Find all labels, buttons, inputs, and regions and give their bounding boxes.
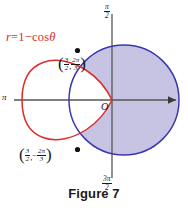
equation-theta: θ	[49, 30, 55, 44]
paren-open: (	[19, 145, 25, 164]
paren-open: (	[58, 54, 64, 73]
fraction-denominator: 3	[37, 155, 46, 163]
point-marker-upper	[75, 48, 80, 53]
axis-label-pi: π	[2, 93, 7, 102]
axis-label-pi-over-2: π 2	[104, 2, 110, 19]
equation-cos: cos	[32, 30, 49, 44]
paren-close: )	[46, 145, 52, 164]
origin-label: O	[101, 102, 108, 112]
figure-container: r=1−cosθ π π 2 3π 2 O ( 3 2 , 2π 3 ) ( 3…	[0, 0, 188, 208]
fraction-numerator: 2π	[71, 57, 80, 64]
fraction-numerator: π	[104, 3, 110, 11]
fraction-numerator: 2π	[37, 148, 46, 155]
equation-label: r=1−cosθ	[6, 31, 56, 44]
label-minus-sign: −	[32, 150, 37, 160]
point-label-lower: ( 3 2 ,− 2π 3 )	[19, 148, 52, 163]
fraction-denominator: 3	[71, 64, 80, 72]
label-comma: ,	[69, 61, 71, 71]
point-label-upper: ( 3 2 , 2π 3 )	[58, 57, 86, 72]
point-marker-lower	[75, 147, 80, 152]
fraction-denominator: 2	[104, 11, 110, 20]
fraction-theta-lower: 2π 3	[37, 148, 46, 163]
fraction-numerator: 3π	[102, 175, 112, 183]
paren-close: )	[80, 54, 86, 73]
fraction-pi-2: π 2	[104, 3, 110, 19]
fraction-theta-upper: 2π 3	[71, 57, 80, 72]
equation-minus: −	[25, 30, 32, 44]
figure-caption: Figure 7	[0, 186, 188, 201]
